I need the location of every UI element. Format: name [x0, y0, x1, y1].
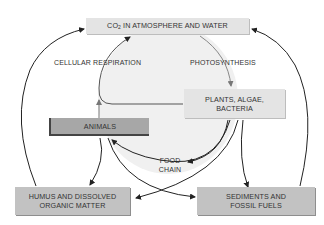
animals-to-humus-arrow — [90, 138, 102, 185]
humus-to-co2-arrow — [21, 29, 84, 186]
respiration-label: CELLULAR RESPIRATION — [54, 58, 141, 67]
respiration-arrow — [99, 37, 183, 104]
humus-organic-matter-box: HUMUS AND DISSOLVED ORGANIC MATTER — [15, 187, 130, 215]
co2-label: CO2 IN ATMOSPHERE AND WATER — [107, 21, 228, 32]
plants-algae-bacteria-box: PLANTS, ALGAE, BACTERIA — [184, 89, 285, 118]
co2-atmosphere-box: CO2 IN ATMOSPHERE AND WATER — [86, 18, 249, 34]
sediments-fossil-fuels-box: SEDIMENTS AND FOSSIL FUELS — [197, 187, 315, 215]
plants-to-sediments-arrow — [241, 120, 248, 187]
food-chain-label: FOOD CHAIN — [155, 156, 185, 174]
photosynthesis-label: PHOTOSYNTHESIS — [190, 58, 256, 67]
plants-to-foodchain-arrow — [188, 120, 228, 162]
animals-box: ANIMALS — [49, 118, 149, 136]
